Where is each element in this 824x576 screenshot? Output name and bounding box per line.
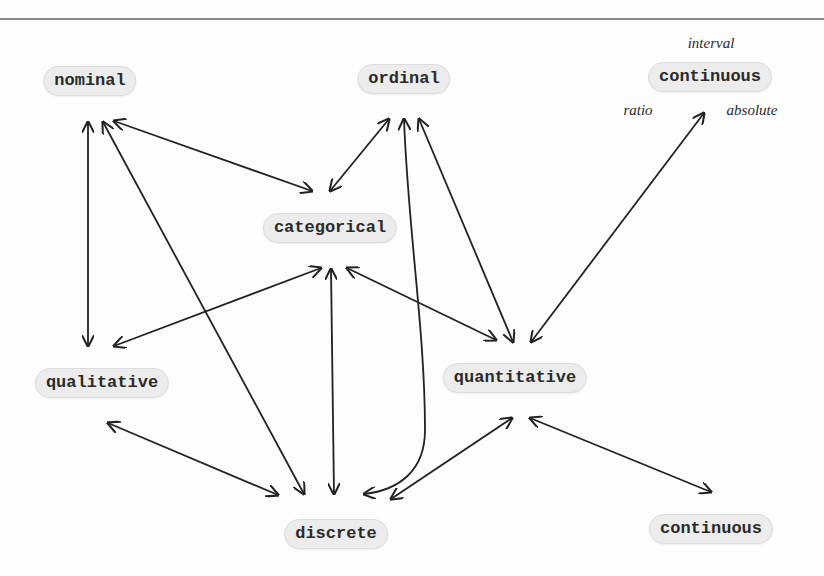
edge-nominal-categorical	[114, 121, 312, 191]
annotation-absolute: absolute	[727, 102, 778, 119]
node-ordinal: ordinal	[357, 64, 450, 94]
node-discrete: discrete	[284, 519, 388, 549]
edge-ordinal-discrete-curved	[364, 119, 425, 494]
node-continuous-bottom: continuous	[649, 514, 773, 544]
edge-categorical-quantitative	[347, 268, 496, 340]
node-qualitative: qualitative	[35, 368, 169, 398]
annotation-interval: interval	[688, 35, 735, 52]
annotation-ratio: ratio	[623, 102, 652, 119]
node-categorical: categorical	[263, 213, 397, 243]
edge-quantitative-continuous	[530, 418, 711, 492]
node-nominal: nominal	[43, 66, 136, 96]
edge-ordinal-quantitative	[419, 119, 513, 342]
edge-quantitative-discrete	[391, 418, 512, 499]
edge-qualitative-discrete	[108, 423, 278, 495]
edge-continuous-quantitative	[531, 113, 704, 342]
edge-ordinal-categorical	[330, 119, 389, 191]
node-quantitative: quantitative	[443, 363, 587, 393]
node-continuous-top: continuous	[648, 62, 772, 92]
edge-categorical-discrete	[331, 269, 334, 494]
